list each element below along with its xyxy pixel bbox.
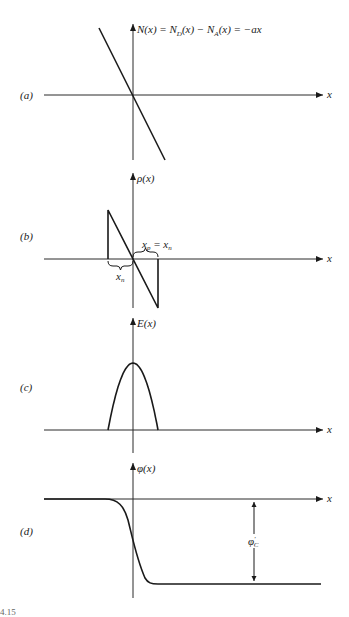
panel-label-a: (a)	[20, 89, 33, 102]
x-axis-label-b: x	[326, 252, 332, 264]
x-axis-label-d: x	[326, 492, 332, 504]
panel-d: (d) x φ(x) φ′C	[20, 462, 332, 598]
panel-label-c: (c)	[20, 381, 33, 394]
brace-xn	[108, 261, 133, 270]
brace-label-xn: xn	[115, 270, 125, 284]
caption-fragment: 4.15	[0, 607, 16, 617]
pn-junction-figure: (a) x N(x) = ND(x) − NA(x) = −ax (b) x ρ…	[0, 0, 349, 617]
panel-label-b: (b)	[20, 230, 33, 243]
y-axis-label-d: φ(x)	[137, 462, 156, 475]
panel-c: (c) x E(x)	[20, 317, 332, 453]
y-axis-label-a: N(x) = ND(x) − NA(x) = −ax	[136, 23, 262, 38]
curve-d-potential	[44, 499, 321, 584]
curve-a-doping	[99, 28, 165, 160]
x-axis-label-a: x	[326, 88, 332, 100]
panel-label-d: (d)	[20, 525, 33, 538]
brace-label-xp-equals-xn: xp = xn	[141, 238, 172, 252]
y-axis-label-c: E(x)	[136, 317, 156, 330]
phi-c-label: φ′C	[248, 535, 259, 549]
y-axis-label-b: ρ(x)	[136, 172, 155, 185]
panel-a: (a) x N(x) = ND(x) − NA(x) = −ax	[20, 23, 332, 160]
x-axis-label-c: x	[326, 423, 332, 435]
panel-b: (b) x ρ(x) xn xp = xn	[20, 172, 332, 308]
